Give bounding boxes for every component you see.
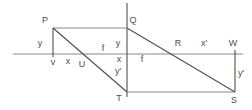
point-label-P: P (42, 15, 48, 25)
point-label-R: R (175, 38, 182, 48)
point-label-S: S (231, 95, 237, 105)
segment-label-x-lens: x (117, 54, 122, 64)
segment-label-x-object: x (66, 56, 71, 66)
point-label-T: T (116, 93, 122, 103)
point-label-v: v (51, 57, 56, 67)
segment-label-y-lens: y (116, 38, 121, 48)
segment-label-y-prime-lens: y' (115, 66, 122, 76)
segment-label-y-prime-image: y' (238, 68, 245, 78)
lens-ray-diagram: PyvxUfyQxfy'Rx'Wy'TS (0, 0, 252, 110)
segment-label-x-prime: x' (201, 38, 208, 48)
point-label-U: U (79, 59, 86, 69)
lens-ray-diagram-svg: PyvxUfyQxfy'Rx'Wy'TS (0, 0, 252, 110)
segment-label-f-right: f (141, 54, 144, 64)
segment-label-f-left: f (102, 43, 105, 53)
point-label-Q: Q (129, 15, 136, 25)
point-label-W: W (229, 38, 238, 48)
segment-label-y-object: y (38, 38, 43, 48)
